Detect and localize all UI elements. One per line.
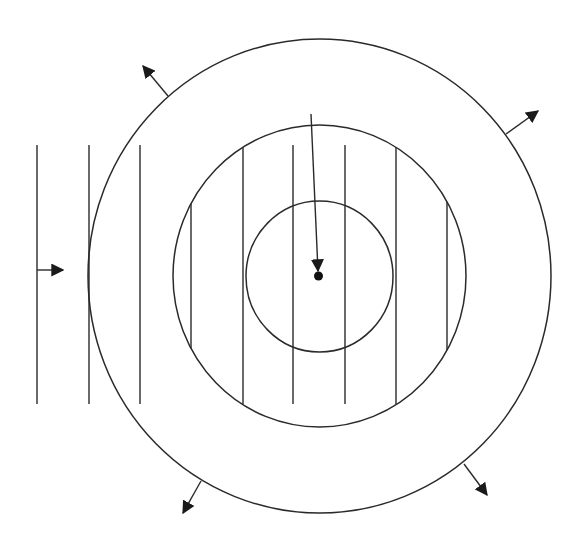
point-scatterer xyxy=(314,272,323,281)
concentric-wave-diagram xyxy=(0,0,577,545)
center-dot-icon xyxy=(314,272,323,281)
wave-diagram xyxy=(0,0,577,545)
background xyxy=(0,0,577,545)
